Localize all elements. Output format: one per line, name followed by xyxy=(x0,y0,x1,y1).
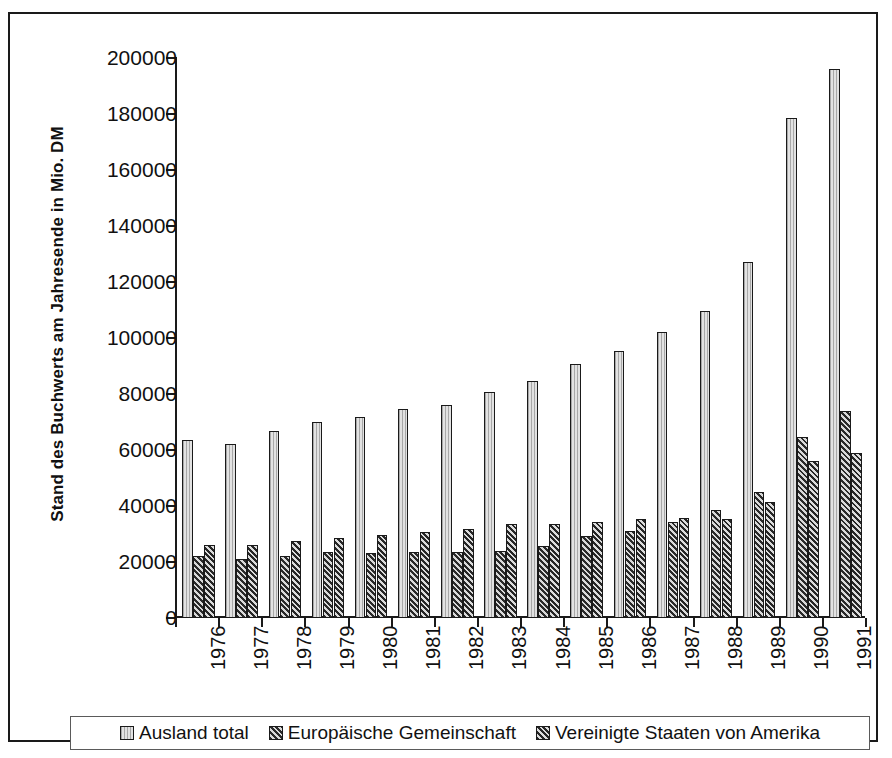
bar xyxy=(722,519,733,618)
bar-group xyxy=(527,58,560,618)
bar xyxy=(786,118,797,618)
x-axis-label: 1988 xyxy=(724,626,747,671)
bar-group xyxy=(484,58,517,618)
y-tick-label: 20000 xyxy=(0,550,177,574)
x-axis-label: 1978 xyxy=(293,626,316,671)
legend-label: Ausland total xyxy=(139,722,249,744)
legend-swatch-icon xyxy=(536,726,550,740)
bar-group xyxy=(355,58,388,618)
bar-group xyxy=(614,58,647,618)
bar xyxy=(291,541,302,618)
bar xyxy=(334,538,345,618)
bar xyxy=(377,535,388,618)
bar xyxy=(840,411,851,618)
x-axis-label: 1979 xyxy=(336,626,359,671)
x-axis-label: 1980 xyxy=(379,626,402,671)
x-axis-label: 1989 xyxy=(767,626,790,671)
bar xyxy=(495,551,506,618)
bar xyxy=(636,519,647,618)
y-tick-label: 0 xyxy=(0,606,177,630)
bar xyxy=(592,522,603,618)
bar xyxy=(420,532,431,618)
bar xyxy=(409,552,420,618)
x-axis-label: 1984 xyxy=(552,626,575,671)
bar xyxy=(743,262,754,618)
bar xyxy=(679,518,690,618)
legend-item[interactable]: Europäische Gemeinschaft xyxy=(269,722,516,744)
legend-swatch-icon xyxy=(269,726,283,740)
bar-group xyxy=(829,58,862,618)
bar xyxy=(614,351,625,618)
bar xyxy=(527,381,538,618)
bar xyxy=(808,461,819,618)
bar xyxy=(182,440,193,618)
bar-group xyxy=(441,58,474,618)
chart-frame: Stand des Buchwerts am Jahresende in Mio… xyxy=(8,12,878,742)
bar xyxy=(484,392,495,618)
legend-item[interactable]: Vereinigte Staaten von Amerika xyxy=(536,722,820,744)
x-tick-mark xyxy=(175,618,177,627)
y-axis-title: Stand des Buchwerts am Jahresende in Mio… xyxy=(48,44,68,604)
bar xyxy=(280,556,291,618)
bar xyxy=(700,311,711,618)
bar xyxy=(398,409,409,618)
bar xyxy=(538,546,549,618)
x-axis-label: 1977 xyxy=(250,626,273,671)
y-tick-label: 160000 xyxy=(0,158,177,182)
y-tick-label: 120000 xyxy=(0,270,177,294)
y-tick-label: 80000 xyxy=(0,382,177,406)
legend-item[interactable]: Ausland total xyxy=(120,722,249,744)
y-tick-label: 100000 xyxy=(0,326,177,350)
bar-group xyxy=(269,58,302,618)
plot-area: 2000001800001600001400001200001000008000… xyxy=(175,58,865,618)
bar xyxy=(549,524,560,618)
x-axis-label: 1981 xyxy=(422,626,445,671)
x-axis-label: 1991 xyxy=(853,626,876,671)
bar-group xyxy=(570,58,603,618)
bar xyxy=(506,524,517,618)
y-tick-label: 60000 xyxy=(0,438,177,462)
x-axis-label: 1987 xyxy=(681,626,704,671)
bar xyxy=(657,332,668,618)
bar xyxy=(581,536,592,618)
bar xyxy=(851,453,862,618)
bar xyxy=(269,431,280,618)
bar xyxy=(570,364,581,618)
bar-group xyxy=(786,58,819,618)
y-tick-label: 40000 xyxy=(0,494,177,518)
bar xyxy=(193,556,204,618)
x-axis-label: 1976 xyxy=(207,626,230,671)
y-tick-label: 200000 xyxy=(0,46,177,70)
bar xyxy=(225,444,236,618)
bar-group xyxy=(312,58,345,618)
bar xyxy=(797,437,808,618)
legend-label: Vereinigte Staaten von Amerika xyxy=(555,722,820,744)
bar xyxy=(312,422,323,618)
legend-label: Europäische Gemeinschaft xyxy=(288,722,516,744)
bar xyxy=(711,510,722,618)
x-axis-label: 1986 xyxy=(638,626,661,671)
bar-group xyxy=(657,58,690,618)
bar xyxy=(355,417,366,618)
bar xyxy=(204,545,215,618)
bar-group xyxy=(743,58,776,618)
y-tick-label: 180000 xyxy=(0,102,177,126)
legend-swatch-icon xyxy=(120,726,134,740)
bar xyxy=(247,545,258,618)
bar xyxy=(463,529,474,618)
bar-group xyxy=(398,58,431,618)
bar xyxy=(236,559,247,618)
x-axis-label: 1985 xyxy=(595,626,618,671)
bar-group xyxy=(182,58,215,618)
bar-group xyxy=(700,58,733,618)
x-axis-label: 1982 xyxy=(465,626,488,671)
bar xyxy=(452,552,463,618)
bar xyxy=(366,553,377,618)
bar xyxy=(754,492,765,618)
bar xyxy=(323,552,334,618)
chart-legend: Ausland totalEuropäische GemeinschaftVer… xyxy=(70,716,870,750)
x-axis-label: 1983 xyxy=(508,626,531,671)
x-axis-label: 1990 xyxy=(810,626,833,671)
bar xyxy=(625,531,636,618)
bar-group xyxy=(225,58,258,618)
